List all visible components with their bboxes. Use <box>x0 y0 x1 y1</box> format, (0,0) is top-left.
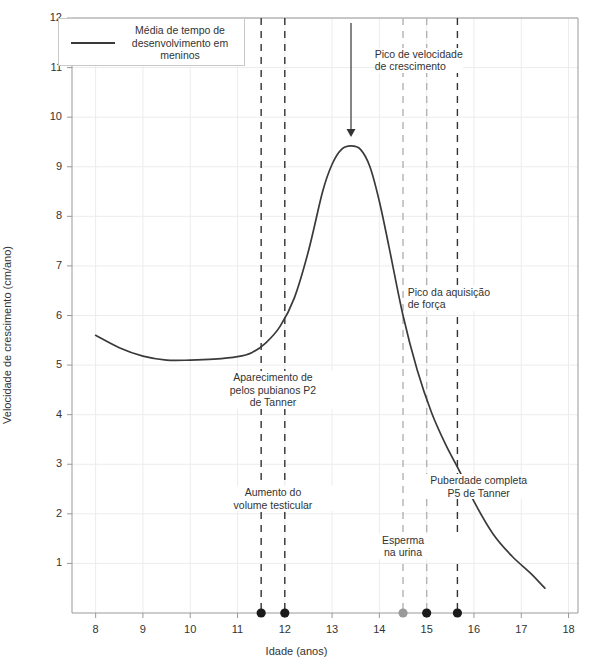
y-tick-label: 1 <box>36 556 62 568</box>
y-tick-label: 4 <box>36 408 62 420</box>
event-dot <box>280 608 289 617</box>
event-dot <box>453 608 462 617</box>
annotation-peak: Pico de velocidade de crescimento <box>375 48 463 73</box>
x-tick-label: 9 <box>128 623 158 635</box>
y-tick-label: 7 <box>36 259 62 271</box>
growth-velocity-curve <box>96 146 545 588</box>
legend: Média de tempo de desenvolvimento em men… <box>58 18 245 66</box>
y-tick-label: 9 <box>36 160 62 172</box>
x-tick-label: 15 <box>412 623 442 635</box>
growth-velocity-chart: Velocidade de crescimento (cm/ano) Idade… <box>0 0 593 670</box>
annotation-sperm-urine: Esperma na urina <box>343 534 463 559</box>
x-axis-title: Idade (anos) <box>0 645 593 657</box>
plot-area <box>0 0 593 670</box>
annotation-testicular-volume: Aumento do volume testicular <box>213 486 333 511</box>
legend-label: Média de tempo de desenvolvimento em men… <box>121 24 239 62</box>
x-tick-label: 8 <box>81 623 111 635</box>
y-axis-title: Velocidade de crescimento (cm/ano) <box>0 0 14 670</box>
event-dot <box>398 608 407 617</box>
x-tick-label: 12 <box>270 623 300 635</box>
x-tick-label: 13 <box>317 623 347 635</box>
x-tick-label: 10 <box>175 623 205 635</box>
x-tick-label: 17 <box>506 623 536 635</box>
y-tick-label: 6 <box>36 309 62 321</box>
annotation-complete-puberty: Puberdade completa P5 de Tanner <box>419 474 539 499</box>
x-tick-label: 16 <box>459 623 489 635</box>
y-tick-label: 2 <box>36 507 62 519</box>
y-tick-label: 10 <box>36 110 62 122</box>
y-tick-label: 3 <box>36 457 62 469</box>
y-tick-label: 8 <box>36 209 62 221</box>
peak-arrow-head <box>347 129 356 137</box>
annotation-pubic-hair: Aparecimento de pelos pubianos P2 de Tan… <box>213 371 333 409</box>
x-tick-label: 11 <box>223 623 253 635</box>
event-dot <box>422 608 431 617</box>
event-dot <box>257 608 266 617</box>
x-tick-label: 14 <box>364 623 394 635</box>
annotation-strength-peak: Pico da aquisição de força <box>408 286 490 311</box>
y-tick-label: 5 <box>36 358 62 370</box>
x-tick-label: 18 <box>554 623 584 635</box>
legend-line-swatch <box>71 42 115 44</box>
